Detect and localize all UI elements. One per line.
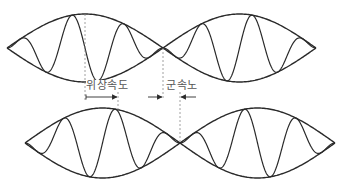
top-wave-packet — [7, 14, 316, 82]
phase-velocity-label: 위상속도 — [86, 80, 128, 92]
group-velocity-label: 군속노 — [166, 80, 198, 92]
wave-packet-diagram — [0, 0, 344, 190]
